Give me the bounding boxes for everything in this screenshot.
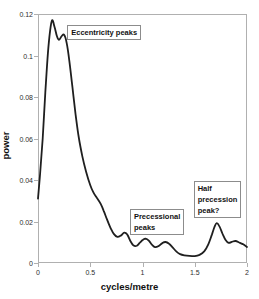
y-tick-label: 0.04	[0, 176, 33, 185]
annotation-precessional-peaks: Precessional peaks	[130, 209, 184, 235]
y-tick-label: 0.12	[0, 10, 33, 19]
y-tick-label: 0.08	[0, 93, 33, 102]
y-tick-label: 0	[0, 259, 33, 268]
annotation-eccentricity-peaks: Eccentricity peaks	[67, 25, 141, 40]
x-tick-label: 0	[25, 268, 51, 277]
x-tick-label: 1	[130, 268, 156, 277]
x-tick-label: 0.5	[77, 268, 103, 277]
x-tick-label: 2	[234, 268, 259, 277]
x-tick-label: 1.5	[182, 268, 208, 277]
y-tick-label: 0.06	[0, 135, 33, 144]
y-tick-label: 0.1	[0, 52, 33, 61]
x-axis-title: cycles/metre	[0, 281, 259, 292]
annotation-half-precession-peak: Half precession peak?	[194, 181, 242, 218]
power-spectrum-chart: power cycles/metre 00.020.040.060.080.10…	[0, 0, 259, 299]
y-tick-label: 0.02	[0, 218, 33, 227]
plot-canvas	[0, 0, 259, 299]
